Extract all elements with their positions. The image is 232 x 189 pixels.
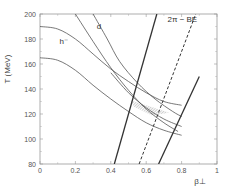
curve-h-middle (111, 73, 182, 127)
y-tick-label: 180 (24, 36, 36, 43)
curve-2-be-left-bound (114, 14, 156, 164)
y-tick-label: 140 (24, 86, 36, 93)
y-tick-label: 160 (24, 61, 36, 68)
x-tick-label: 0.2 (71, 167, 81, 174)
curve-2-be-right-bound (159, 77, 200, 165)
shaded-region (130, 100, 169, 115)
axis-ticks: 00.20.40.60.8180100120140160180200 (24, 11, 219, 175)
curve-2-be (139, 14, 196, 164)
y-tick-label: 100 (24, 136, 36, 143)
curve-d-left (75, 14, 178, 132)
x-tick-label: 0.8 (177, 167, 187, 174)
x-tick-label: 0 (38, 167, 42, 174)
chart: 00.20.40.60.8180100120140160180200 h⁻d2π… (0, 0, 232, 189)
y-axis-label: T (MeV) (3, 54, 12, 83)
hatched-region (130, 100, 169, 115)
annotation-label: 2π − BE (167, 15, 197, 24)
y-tick-label: 80 (28, 161, 36, 168)
x-axis-label: β⊥ (194, 177, 206, 186)
x-tick-label: 0.6 (141, 167, 151, 174)
annotation-label: d (97, 22, 101, 31)
x-tick-label: 0.4 (106, 167, 116, 174)
annotation-label: h⁻ (59, 37, 67, 46)
y-tick-label: 200 (24, 11, 36, 18)
x-tick-label: 1 (215, 167, 219, 174)
y-tick-label: 120 (24, 111, 36, 118)
